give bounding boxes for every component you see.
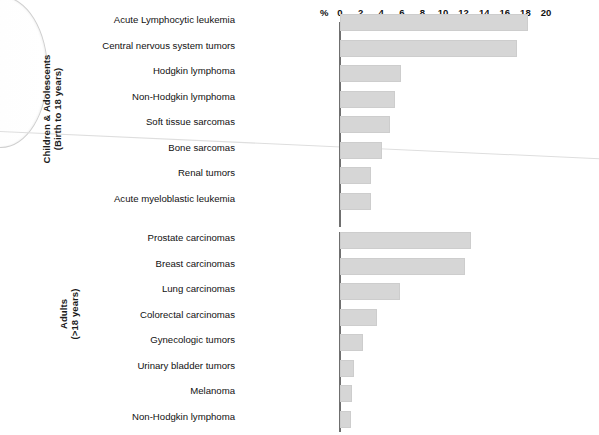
chart-panel-adults: Adults (>18 years) Prostate carcinomasBr… [0, 228, 572, 435]
bar-row: Acute myeloblastic leukemia [0, 189, 572, 215]
bar-row-label: Gynecologic tumors [150, 334, 235, 345]
bar-row: Melanoma [0, 381, 572, 407]
bar-track [340, 334, 555, 351]
bar-track [340, 91, 555, 108]
bar-row-label: Acute myeloblastic leukemia [114, 193, 235, 204]
bar-row-label: Breast carcinomas [156, 258, 235, 269]
adults-bar-rows: Prostate carcinomasBreast carcinomasLung… [0, 228, 572, 432]
bar-row-label: Hodgkin lymphoma [153, 65, 235, 76]
bar-row: Prostate carcinomas [0, 228, 572, 254]
bar [340, 65, 401, 82]
bar [340, 411, 351, 428]
bar-track [340, 65, 555, 82]
bar [340, 40, 517, 57]
bar-row: Lung carcinomas [0, 279, 572, 305]
bar [340, 167, 371, 184]
bar-row: Breast carcinomas [0, 254, 572, 280]
bar-row-label: Non-Hodgkin lymphoma [132, 411, 235, 422]
bar [340, 283, 400, 300]
bar-track [340, 258, 555, 275]
bar-row: Soft tissue sarcomas [0, 112, 572, 138]
bar [340, 232, 471, 249]
bar-row: Non-Hodgkin lymphoma [0, 407, 572, 433]
bar [340, 142, 382, 159]
bar-track [340, 283, 555, 300]
bar-track [340, 142, 555, 159]
bar-row: Gynecologic tumors [0, 330, 572, 356]
bar-track [340, 193, 555, 210]
bar-track [340, 232, 555, 249]
bar-row: Urinary bladder tumors [0, 356, 572, 382]
bar [340, 258, 465, 275]
bar-row-label: Colorectal carcinomas [140, 309, 235, 320]
bar-row-label: Melanoma [190, 385, 235, 396]
bar [340, 334, 363, 351]
bar-track [340, 385, 555, 402]
bar [340, 385, 352, 402]
chart-panel-children: Children & Adolescents (Birth to 18 year… [0, 10, 572, 222]
bar [340, 116, 390, 133]
bar-row: Hodgkin lymphoma [0, 61, 572, 87]
bar-row: Colorectal carcinomas [0, 305, 572, 331]
bar-track [340, 14, 555, 31]
bar-row-label: Soft tissue sarcomas [146, 116, 235, 127]
bar [340, 91, 395, 108]
bar-row-label: Non-Hodgkin lymphoma [132, 91, 235, 102]
bar [340, 360, 354, 377]
bar-track [340, 411, 555, 428]
bar-row-label: Renal tumors [178, 167, 235, 178]
bar-track [340, 309, 555, 326]
bar-track [340, 167, 555, 184]
bar-row-label: Prostate carcinomas [148, 232, 235, 243]
bar-row-label: Urinary bladder tumors [137, 360, 235, 371]
bar-row: Acute Lymphocytic leukemia [0, 10, 572, 36]
bar-row-label: Central nervous system tumors [102, 40, 235, 51]
bar-row: Non-Hodgkin lymphoma [0, 87, 572, 113]
bar-row: Central nervous system tumors [0, 36, 572, 62]
bar [340, 193, 371, 210]
bar [340, 14, 528, 31]
bar-row-label: Acute Lymphocytic leukemia [114, 14, 235, 25]
bar-row-label: Bone sarcomas [168, 142, 235, 153]
bar [340, 309, 377, 326]
bar-row: Bone sarcomas [0, 138, 572, 164]
bar-track [340, 116, 555, 133]
children-bar-rows: Acute Lymphocytic leukemiaCentral nervou… [0, 10, 572, 214]
bar-row-label: Lung carcinomas [162, 283, 235, 294]
bar-track [340, 40, 555, 57]
bar-row: Renal tumors [0, 163, 572, 189]
bar-track [340, 360, 555, 377]
